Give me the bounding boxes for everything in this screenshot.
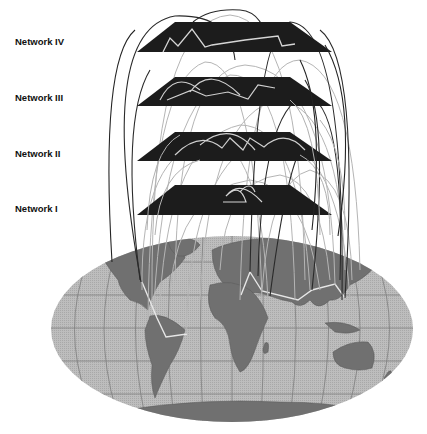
plate-network-iii — [137, 77, 332, 106]
network-plates — [137, 22, 332, 215]
multilayer-network-diagram — [0, 0, 427, 434]
plate-network-i — [137, 185, 332, 215]
world-map — [40, 236, 420, 424]
